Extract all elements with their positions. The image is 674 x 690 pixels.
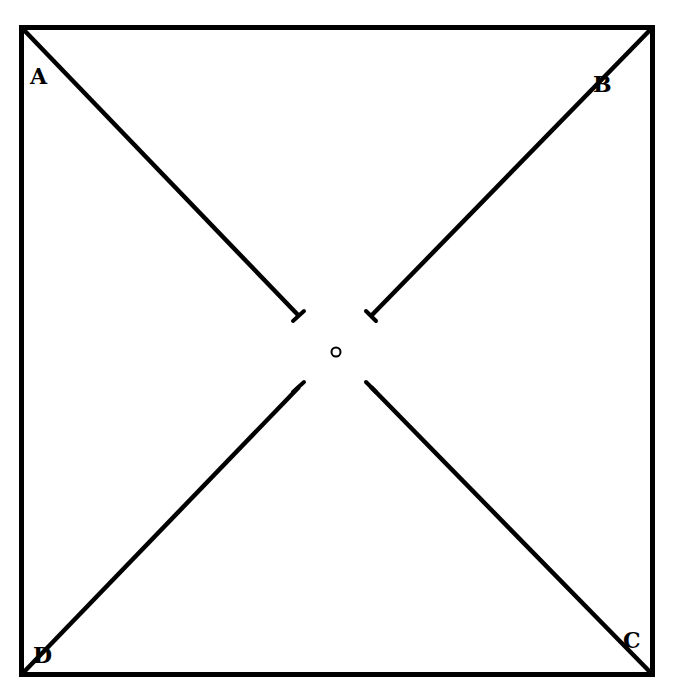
segment-d-center — [22, 387, 299, 674]
diagram-canvas: A B C D — [0, 0, 674, 690]
segment-a-center — [22, 28, 299, 316]
segment-end-caps — [293, 311, 376, 392]
center-point-marker — [332, 348, 341, 357]
segment-c-center — [371, 387, 652, 674]
diagonal-segments — [22, 28, 652, 674]
corner-label-d: D — [33, 642, 52, 668]
corner-label-a: A — [29, 63, 48, 89]
end-cap-c — [366, 382, 376, 392]
corner-label-c: C — [623, 627, 641, 653]
corner-label-b: B — [593, 71, 612, 97]
